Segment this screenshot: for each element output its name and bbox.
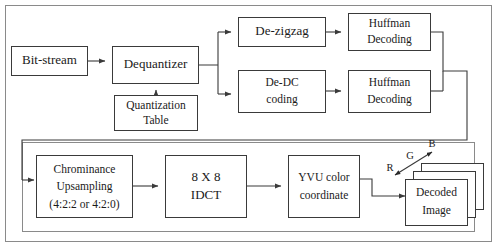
block-de-dc-coding-line2: coding [266,93,298,106]
block-chrominance-upsampling-line2: Upsampling [56,180,112,193]
block-de-dc-coding-line1: De-DC [265,76,299,88]
block-chrominance-upsampling-line1: Chrominance [54,163,116,175]
block-yvu-color-coordinate-line1: YVU color [298,171,350,183]
block-quantization-table-line1: Quantization [126,99,186,111]
block-chrominance-upsampling-line3: (4:2:2 or 4:2:0) [49,198,119,211]
block-yvu-color-coordinate[interactable] [289,156,360,218]
block-decoded-image-line2: Image [422,204,451,217]
block-decoded-image-line1: Decoded [416,186,457,198]
connector-yvu-to-decoded-image [359,179,405,196]
block-huffman-decoding-bottom-line1: Huffman [369,76,411,88]
block-de-zigzag-label: De-zigzag [255,23,309,38]
block-dequantizer-label: Dequantizer [124,56,188,71]
block-quantization-table-line2: Table [143,114,168,126]
block-huffman-decoding-top-line2: Decoding [367,33,412,46]
diagram-canvas: Bit-stream Dequantizer Quantization Tabl… [0,0,497,247]
red-channel-label: R [386,162,393,173]
connector-dequantizer-split-bus [198,32,218,94]
green-channel-label: G [406,150,414,161]
block-idct-line1: 8 X 8 [192,169,221,184]
block-idct-line2: IDCT [191,187,221,202]
block-bit-stream-label: Bit-stream [22,52,77,67]
block-huffman-decoding-top-line1: Huffman [369,17,411,29]
blue-channel-label: B [428,138,435,149]
block-huffman-decoding-bottom-line2: Decoding [367,93,412,106]
jpeg-decoder-diagram: Bit-stream Dequantizer Quantization Tabl… [0,0,497,247]
block-yvu-color-coordinate-line2: coordinate [300,189,349,201]
